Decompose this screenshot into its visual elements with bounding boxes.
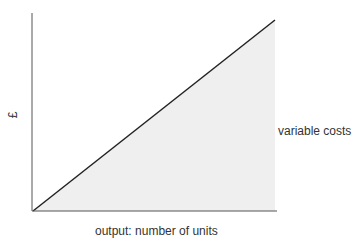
y-axis-label: £ (6, 112, 20, 119)
x-axis-label: output: number of units (95, 224, 218, 238)
series-label: variable costs (278, 124, 351, 138)
chart-canvas (0, 0, 362, 240)
